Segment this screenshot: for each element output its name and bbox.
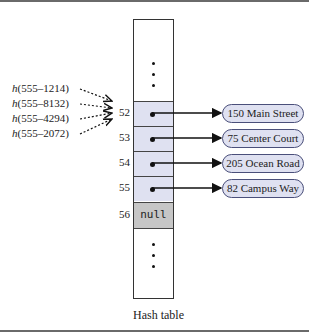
list-node-1: 150 Main Street [222, 104, 304, 123]
hash-arrows [80, 89, 112, 134]
list-node-4: 82 Campus Way [222, 179, 304, 198]
diagram-caption: Hash table [133, 308, 174, 323]
bottom-rule [0, 330, 309, 332]
pointer-arrows [152, 113, 221, 188]
list-node-2: 75 Center Court [222, 129, 304, 148]
list-node-3: 205 Ocean Road [222, 154, 304, 173]
